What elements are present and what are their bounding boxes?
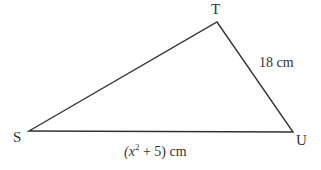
- triangle-stu: [29, 22, 293, 132]
- vertex-label-t: T: [211, 1, 220, 17]
- vertex-label-s: S: [13, 129, 21, 145]
- triangle-diagram: T S U 18 cm (x2 + 5) cm: [0, 0, 321, 170]
- side-label-su: (x2 + 5) cm: [124, 142, 187, 160]
- side-label-tu: 18 cm: [259, 55, 294, 70]
- side-label-su-suffix: + 5) cm: [139, 144, 186, 160]
- vertex-label-u: U: [296, 132, 307, 148]
